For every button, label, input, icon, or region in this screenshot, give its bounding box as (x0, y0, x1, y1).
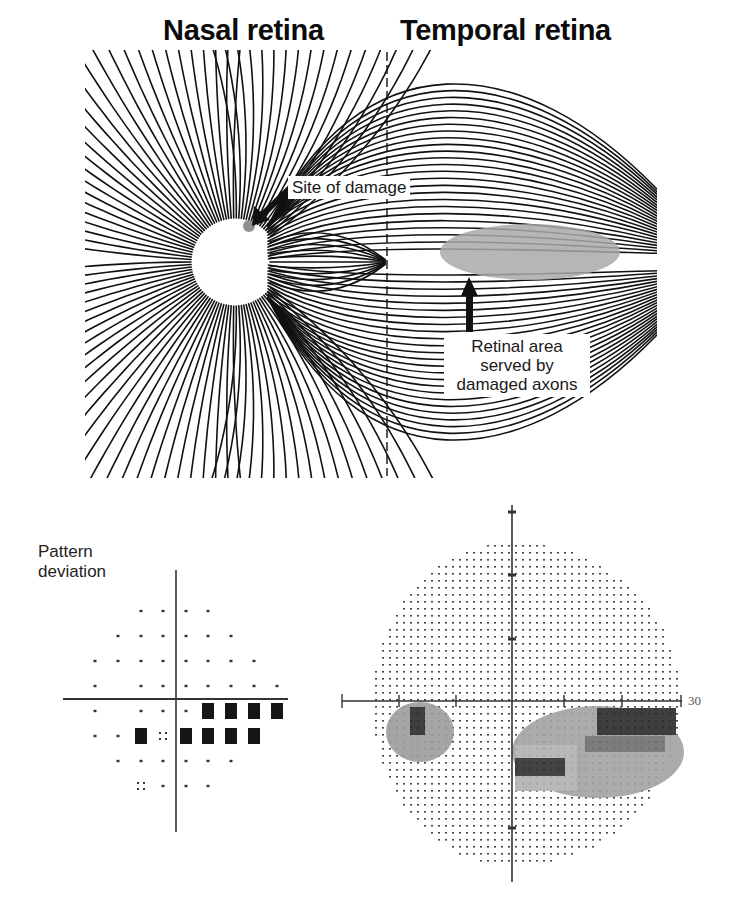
pattern-deviation-label-line2: deviation (38, 562, 106, 582)
retinal-area-line2: served by (446, 356, 588, 375)
visual-field-axis-label-30: 30 (688, 693, 701, 709)
pattern-deviation-label: Pattern deviation (38, 542, 106, 583)
pattern-deviation-axes (63, 570, 288, 832)
pattern-deviation-label-line1: Pattern (38, 542, 106, 562)
retinal-area-line1: Retinal area (446, 337, 588, 356)
visual-field-plot (342, 505, 684, 882)
nerve-fiber-diagram (0, 0, 732, 904)
damaged-retinal-area (440, 224, 620, 280)
retinal-area-label: Retinal area served by damaged axons (444, 334, 590, 397)
site-of-damage-label: Site of damage (288, 176, 410, 199)
retinal-area-line3: damaged axons (446, 375, 588, 394)
optic-disc (202, 222, 268, 302)
